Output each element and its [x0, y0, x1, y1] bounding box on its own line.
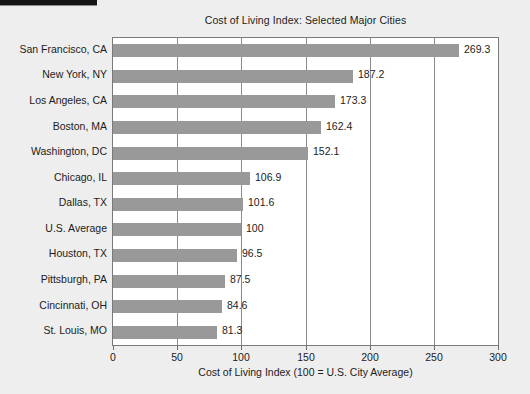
y-axis-category-labels: San Francisco, CANew York, NYLos Angeles…	[0, 37, 107, 346]
bar-value-label: 173.3	[340, 94, 366, 106]
y-axis-label: Boston, MA	[0, 120, 107, 132]
bar-value-label: 87.5	[230, 273, 250, 285]
x-axis-tick-mark	[177, 346, 178, 350]
x-axis-tick-label: 250	[425, 351, 443, 363]
y-axis-label: Dallas, TX	[0, 196, 107, 208]
x-axis-tick-mark	[370, 346, 371, 350]
x-axis-tick-mark	[434, 346, 435, 350]
chart-title: Cost of Living Index: Selected Major Cit…	[112, 14, 499, 26]
x-axis-tick-label: 200	[361, 351, 379, 363]
y-axis-label: Pittsburgh, PA	[0, 273, 107, 285]
y-axis-label: San Francisco, CA	[0, 43, 107, 55]
bar-value-label: 100	[246, 222, 264, 234]
bar-value-label: 101.6	[248, 196, 274, 208]
bar-value-label: 106.9	[255, 171, 281, 183]
bar-value-label: 81.3	[222, 324, 242, 336]
bar-value-labels: 269.3187.2173.3162.4152.1106.9101.610096…	[112, 37, 530, 346]
x-axis-tick-mark	[498, 346, 499, 350]
bar-value-label: 187.2	[358, 68, 384, 80]
y-axis-label: Houston, TX	[0, 247, 107, 259]
y-axis-label: New York, NY	[0, 68, 107, 80]
bar-value-label: 152.1	[313, 145, 339, 157]
y-axis-label: Washington, DC	[0, 145, 107, 157]
x-axis-tick-label: 0	[110, 351, 116, 363]
y-axis-label: St. Louis, MO	[0, 324, 107, 336]
bar-chart-figure: Cost of Living Index: Selected Major Cit…	[0, 0, 530, 394]
x-axis-tick-label: 300	[489, 351, 507, 363]
x-axis-tick-label: 150	[297, 351, 315, 363]
y-axis-label: U.S. Average	[0, 222, 107, 234]
y-axis-label: Cincinnati, OH	[0, 299, 107, 311]
x-axis-ticks: 050100150200250300	[112, 346, 499, 364]
bar-value-label: 84.6	[227, 299, 247, 311]
x-axis-tick-label: 100	[232, 351, 250, 363]
x-axis-title: Cost of Living Index (100 = U.S. City Av…	[112, 366, 499, 378]
x-axis-tick-label: 50	[171, 351, 183, 363]
x-axis-tick-mark	[113, 346, 114, 350]
bar-value-label: 269.3	[464, 43, 490, 55]
x-axis-tick-mark	[306, 346, 307, 350]
bar-value-label: 162.4	[326, 120, 352, 132]
y-axis-label: Chicago, IL	[0, 171, 107, 183]
y-axis-label: Los Angeles, CA	[0, 94, 107, 106]
bar-value-label: 96.5	[242, 247, 262, 259]
x-axis-tick-mark	[241, 346, 242, 350]
